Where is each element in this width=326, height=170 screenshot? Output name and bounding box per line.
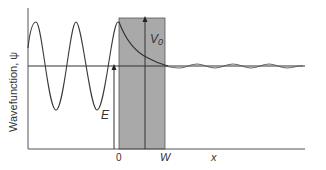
x-axis-label: x: [210, 151, 217, 163]
tick-label-zero: 0: [116, 152, 122, 163]
energy-arrowhead-icon: [112, 64, 117, 70]
energy-label: E: [101, 108, 110, 122]
y-axis-label: Wavefunction, ψ: [7, 52, 19, 132]
tick-label-w: W: [160, 151, 172, 163]
tunneling-diagram: Wavefunction, ψ E V0 0 W x: [0, 0, 326, 170]
